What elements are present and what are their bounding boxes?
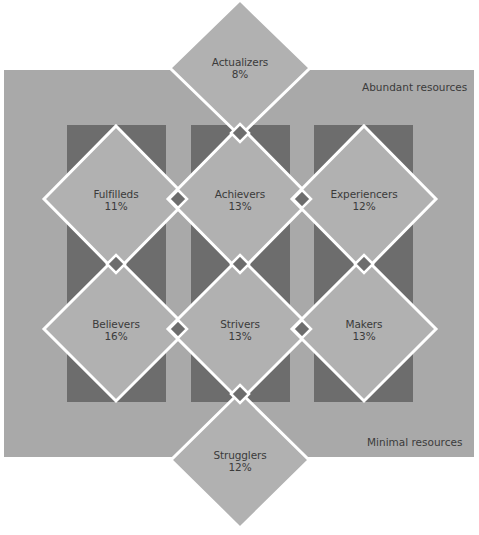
- segment-percent: 13%: [185, 200, 295, 212]
- segment-percent: 13%: [185, 330, 295, 342]
- segment-makers: Makers 13%: [309, 318, 419, 342]
- segment-percent: 13%: [309, 330, 419, 342]
- vals-segment-diagram: Abundant resources Minimal resources Act…: [0, 0, 479, 535]
- segment-achievers: Achievers 13%: [185, 188, 295, 212]
- segment-name: Believers: [61, 318, 171, 330]
- segment-name: Experiencers: [309, 188, 419, 200]
- segment-actualizers: Actualizers 8%: [185, 56, 295, 80]
- segment-fulfilleds: Fulfilleds 11%: [61, 188, 171, 212]
- segment-percent: 11%: [61, 200, 171, 212]
- segment-percent: 16%: [61, 330, 171, 342]
- segment-percent: 12%: [309, 200, 419, 212]
- segment-percent: 8%: [185, 68, 295, 80]
- segment-name: Makers: [309, 318, 419, 330]
- segment-believers: Believers 16%: [61, 318, 171, 342]
- segment-strugglers: Strugglers 12%: [185, 449, 295, 473]
- segment-name: Actualizers: [185, 56, 295, 68]
- abundant-resources-label: Abundant resources: [362, 81, 467, 93]
- segment-percent: 12%: [185, 461, 295, 473]
- segment-name: Strivers: [185, 318, 295, 330]
- minimal-resources-label: Minimal resources: [367, 436, 462, 448]
- segment-experiencers: Experiencers 12%: [309, 188, 419, 212]
- segment-name: Fulfilleds: [61, 188, 171, 200]
- segment-strivers: Strivers 13%: [185, 318, 295, 342]
- segment-name: Achievers: [185, 188, 295, 200]
- segment-name: Strugglers: [185, 449, 295, 461]
